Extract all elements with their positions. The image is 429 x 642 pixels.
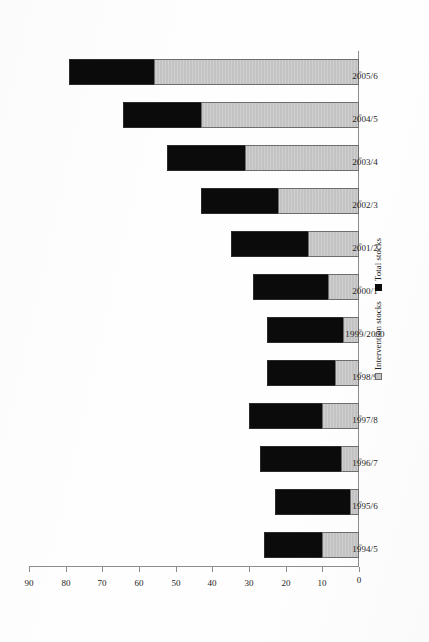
value-axis-tick xyxy=(249,567,250,572)
legend-label: Total stocks xyxy=(373,238,383,281)
bar-segment-intervention-stocks[interactable] xyxy=(201,103,359,129)
bar-stack[interactable] xyxy=(230,232,358,258)
value-axis-tick-label: 80 xyxy=(61,579,70,631)
bar-segment-intervention-stocks[interactable] xyxy=(245,146,359,172)
bar-stack[interactable] xyxy=(260,447,359,473)
value-axis-tick xyxy=(65,567,66,572)
tick-label-text: 30 xyxy=(244,579,253,588)
bar-segment-intervention-stocks[interactable] xyxy=(278,189,359,215)
tick-label-text: 40 xyxy=(207,579,216,588)
value-axis-tick xyxy=(322,567,323,572)
legend-swatch-total-icon xyxy=(374,284,381,291)
chart-legend: Intervention stocksTotal stocks xyxy=(373,51,383,567)
value-axis-tick xyxy=(29,567,30,572)
bar-stack[interactable] xyxy=(201,189,359,215)
legend-swatch-intervention-icon xyxy=(374,373,381,380)
legend-entry[interactable]: Total stocks xyxy=(373,238,383,291)
value-axis-tick xyxy=(285,567,286,572)
bar-stack[interactable] xyxy=(274,490,358,516)
bar-stack[interactable] xyxy=(249,404,359,430)
scanned-page: 0102030405060708090 Million metric tons … xyxy=(0,0,429,642)
bar-segment-intervention-stocks[interactable] xyxy=(153,60,358,86)
bar-stack[interactable] xyxy=(252,275,358,301)
value-axis-tick xyxy=(175,567,176,572)
value-axis-tick-label: 0 xyxy=(354,579,363,631)
bar-stack[interactable] xyxy=(166,146,359,172)
value-axis-tick xyxy=(212,567,213,572)
tick-label-text: 20 xyxy=(281,579,290,588)
tick-label-text: 10 xyxy=(317,579,326,588)
legend-entry[interactable]: Intervention stocks xyxy=(373,301,383,380)
value-axis-tick-label: 90 xyxy=(24,579,33,631)
bar-stack[interactable] xyxy=(122,103,359,129)
value-axis-tick-label: 70 xyxy=(97,579,106,631)
tick-label-text: 50 xyxy=(171,579,180,588)
bar-stack[interactable] xyxy=(267,361,359,387)
tick-label-text: 0 xyxy=(356,577,361,586)
legend-label: Intervention stocks xyxy=(373,301,383,370)
value-axis-tick-label: 40 xyxy=(207,579,216,631)
tick-label-text: 70 xyxy=(97,579,106,588)
value-axis-tick-label: 10 xyxy=(317,579,326,631)
tick-label-text: 80 xyxy=(61,579,70,588)
bar-stack[interactable] xyxy=(69,60,359,86)
tick-label-text: 60 xyxy=(134,579,143,588)
bar-segment-intervention-stocks[interactable] xyxy=(307,232,358,258)
bar-stack[interactable] xyxy=(263,533,358,559)
value-axis-tick xyxy=(359,567,360,572)
value-axis-tick xyxy=(139,567,140,572)
tick-label-text: 90 xyxy=(24,579,33,588)
bar-chart: 0102030405060708090 Million metric tons … xyxy=(15,11,415,631)
value-axis-tick-label: 50 xyxy=(171,579,180,631)
value-axis-tick-label: 30 xyxy=(244,579,253,631)
rotated-chart-container: 0102030405060708090 Million metric tons … xyxy=(15,11,415,631)
plot-area: 1994/51995/61996/71997/81998/91999/20002… xyxy=(29,51,359,567)
value-axis-tick-label: 60 xyxy=(134,579,143,631)
value-axis-tick-label: 20 xyxy=(281,579,290,631)
bar-segment-total-stocks[interactable] xyxy=(274,490,358,516)
value-axis-tick xyxy=(102,567,103,572)
